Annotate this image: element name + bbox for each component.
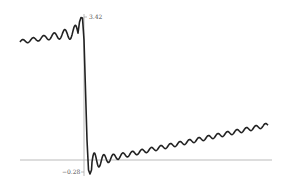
y-tick-label-max: 3.42 xyxy=(89,13,103,20)
chart: 3.42 −0.28 xyxy=(0,0,284,188)
y-tick-label-min: −0.28 xyxy=(62,168,81,175)
data-line xyxy=(20,18,268,175)
